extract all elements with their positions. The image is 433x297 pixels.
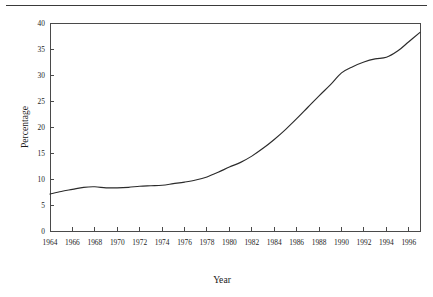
- x-axis-ticks: [50, 227, 409, 231]
- y-tick-label-25: 25: [38, 97, 46, 106]
- line-chart: 0510152025303540 19641966196819701972197…: [0, 0, 433, 297]
- y-tick-label-15: 15: [38, 149, 46, 158]
- x-tick-label-1968: 1968: [87, 238, 102, 247]
- x-tick-label-1982: 1982: [244, 238, 259, 247]
- y-axis-ticks: [50, 23, 54, 231]
- y-axis-title: Percentage: [19, 106, 30, 148]
- y-axis-tick-labels: 0510152025303540: [38, 19, 46, 236]
- y-tick-label-5: 5: [41, 201, 45, 210]
- y-tick-label-35: 35: [38, 45, 46, 54]
- x-tick-label-1974: 1974: [155, 238, 170, 247]
- x-axis-tick-labels: 1964196619681970197219741976197819801982…: [43, 238, 417, 247]
- y-tick-label-0: 0: [41, 227, 45, 236]
- y-tick-label-10: 10: [38, 175, 46, 184]
- percentage-series-line: [50, 32, 420, 194]
- chart-figure: 0510152025303540 19641966196819701972197…: [0, 0, 433, 297]
- x-tick-label-1994: 1994: [379, 238, 394, 247]
- y-tick-label-40: 40: [38, 19, 46, 28]
- y-tick-label-30: 30: [38, 71, 46, 80]
- x-tick-label-1990: 1990: [334, 238, 349, 247]
- x-tick-label-1976: 1976: [177, 238, 192, 247]
- x-tick-label-1970: 1970: [110, 238, 125, 247]
- x-tick-label-1972: 1972: [132, 238, 147, 247]
- x-tick-label-1978: 1978: [200, 238, 215, 247]
- x-tick-label-1988: 1988: [312, 238, 327, 247]
- x-tick-label-1984: 1984: [267, 238, 282, 247]
- x-tick-label-1966: 1966: [65, 238, 80, 247]
- x-axis-title: Year: [213, 274, 231, 285]
- x-tick-label-1986: 1986: [289, 238, 304, 247]
- x-tick-label-1964: 1964: [43, 238, 58, 247]
- x-tick-label-1992: 1992: [357, 238, 372, 247]
- x-tick-label-1996: 1996: [401, 238, 416, 247]
- plot-frame: [50, 23, 420, 231]
- x-tick-label-1980: 1980: [222, 238, 237, 247]
- y-tick-label-20: 20: [38, 123, 46, 132]
